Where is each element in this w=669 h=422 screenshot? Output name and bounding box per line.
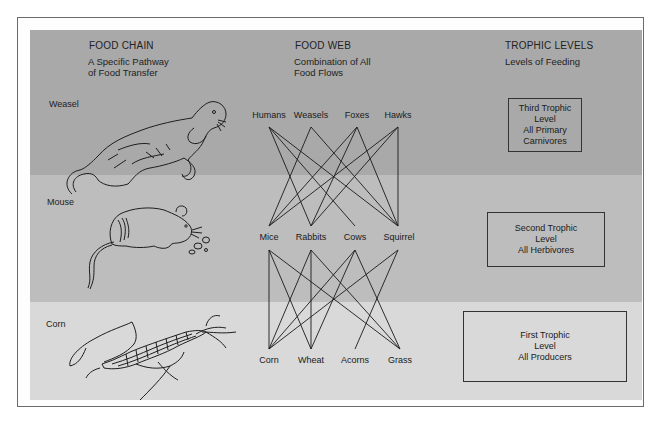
web-node-mice: Mice	[259, 232, 278, 242]
trophic-first-line-1: First Trophic	[518, 330, 572, 341]
trophic-second-line-2: Level	[515, 234, 578, 245]
web-node-hawks: Hawks	[384, 110, 411, 120]
trophic-third-line-2: Level	[519, 114, 572, 125]
trophic-first-line-3: All Producers	[518, 352, 572, 363]
trophic-third-line-3: All Primary	[519, 125, 572, 136]
trophic-first-line-2: Level	[518, 341, 572, 352]
web-node-cows: Cows	[344, 232, 367, 242]
trophic-level-first-box: First Trophic Level All Producers	[463, 311, 627, 382]
web-node-wheat: Wheat	[298, 355, 324, 365]
trophic-level-second-box: Second Trophic Level All Herbivores	[487, 212, 605, 267]
trophic-third-line-1: Third Trophic	[519, 103, 572, 114]
trophic-second-line-1: Second Trophic	[515, 223, 578, 234]
trophic-second-line-3: All Herbivores	[515, 245, 578, 256]
web-node-foxes: Foxes	[345, 110, 370, 120]
web-node-grass: Grass	[388, 355, 412, 365]
web-node-acorns: Acorns	[341, 355, 369, 365]
trophic-level-third-box: Third Trophic Level All Primary Carnivor…	[508, 98, 582, 152]
diagram-panel: FOOD CHAIN A Specific Pathway of Food Tr…	[30, 30, 642, 400]
trophic-third-line-4: Carnivores	[519, 136, 572, 147]
web-node-weasels: Weasels	[294, 110, 328, 120]
web-node-rabbits: Rabbits	[296, 232, 327, 242]
web-node-squirrel: Squirrel	[383, 232, 414, 242]
web-node-corn: Corn	[259, 355, 279, 365]
web-node-humans: Humans	[252, 110, 286, 120]
